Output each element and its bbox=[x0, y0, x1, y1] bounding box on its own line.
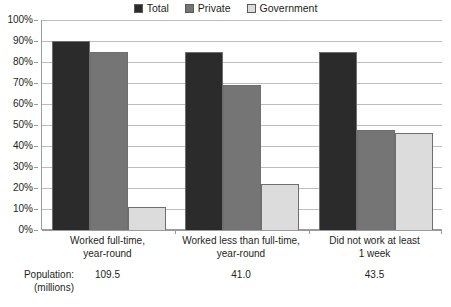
category-label-3-line2: 1 week bbox=[308, 247, 441, 260]
category-label-1: Worked full-time, year-round bbox=[41, 234, 174, 260]
bar-government-group1[interactable] bbox=[128, 207, 166, 230]
bar-total-group3[interactable] bbox=[319, 52, 357, 231]
y-tick-label-80: 80% bbox=[13, 57, 33, 67]
legend-swatch-total bbox=[134, 4, 143, 13]
y-tick-mark-60 bbox=[34, 104, 38, 105]
y-tick-mark-80 bbox=[34, 62, 38, 63]
population-value-2: 41.0 bbox=[174, 268, 308, 281]
category-label-2-line2: year-round bbox=[174, 247, 308, 260]
category-label-1-line1: Worked full-time, bbox=[41, 234, 174, 247]
y-tick-label-0: 0% bbox=[19, 225, 33, 235]
bar-private-group3[interactable] bbox=[357, 130, 395, 230]
y-tick-label-50: 50% bbox=[13, 120, 33, 130]
category-label-3-line1: Did not work at least bbox=[308, 234, 441, 247]
bars-layer bbox=[42, 20, 442, 230]
y-tick-mark-30 bbox=[34, 167, 38, 168]
legend-swatch-private bbox=[185, 4, 194, 13]
category-label-3: Did not work at least 1 week bbox=[308, 234, 441, 260]
population-row: Population: (millions) 109.5 41.0 43.5 bbox=[0, 268, 451, 298]
population-value-1: 109.5 bbox=[41, 268, 174, 281]
y-tick-label-40: 40% bbox=[13, 141, 33, 151]
y-tick-label-90: 90% bbox=[13, 36, 33, 46]
y-tick-label-30: 30% bbox=[13, 162, 33, 172]
bar-government-group3[interactable] bbox=[395, 133, 433, 230]
population-value-3: 43.5 bbox=[308, 268, 441, 281]
y-tick-label-70: 70% bbox=[13, 78, 33, 88]
legend-label-total: Total bbox=[147, 3, 169, 14]
y-tick-mark-70 bbox=[34, 83, 38, 84]
bar-private-group2[interactable] bbox=[223, 85, 261, 230]
legend-entry-government: Government bbox=[247, 3, 318, 14]
y-tick-label-10: 10% bbox=[13, 204, 33, 214]
bar-group-worked-full-time bbox=[42, 20, 175, 230]
y-tick-label-60: 60% bbox=[13, 99, 33, 109]
y-tick-mark-0 bbox=[34, 230, 38, 231]
chart-legend: Total Private Government bbox=[0, 3, 451, 14]
y-tick-mark-90 bbox=[34, 41, 38, 42]
y-tick-mark-40 bbox=[34, 146, 38, 147]
y-tick-mark-50 bbox=[34, 125, 38, 126]
y-tick-mark-100 bbox=[34, 20, 38, 21]
category-label-2-line1: Worked less than full-time, bbox=[174, 234, 308, 247]
y-tick-label-20: 20% bbox=[13, 183, 33, 193]
plot-wrapper: 100% 90% 80% 70% 60% 50% 40% 30% 20% 10%… bbox=[0, 20, 451, 242]
legend-swatch-government bbox=[247, 4, 256, 13]
legend-label-private: Private bbox=[198, 3, 231, 14]
y-axis: 100% 90% 80% 70% 60% 50% 40% 30% 20% 10%… bbox=[0, 20, 38, 230]
bar-total-group2[interactable] bbox=[185, 52, 223, 231]
legend-entry-private: Private bbox=[185, 3, 231, 14]
x-axis-category-labels: Worked full-time, year-round Worked less… bbox=[41, 234, 441, 266]
bar-government-group2[interactable] bbox=[261, 184, 299, 230]
y-tick-mark-20 bbox=[34, 188, 38, 189]
legend-entry-total: Total bbox=[134, 3, 169, 14]
bar-private-group1[interactable] bbox=[90, 52, 128, 231]
bar-group-worked-less-than-full-time bbox=[175, 20, 309, 230]
y-tick-label-100: 100% bbox=[7, 15, 33, 25]
bar-total-group1[interactable] bbox=[52, 41, 90, 230]
category-label-1-line2: year-round bbox=[41, 247, 174, 260]
x-axis-tick-3 bbox=[441, 229, 442, 234]
population-label-line2: (millions) bbox=[0, 281, 74, 294]
bar-group-did-not-work bbox=[309, 20, 442, 230]
plot-area bbox=[41, 20, 441, 230]
legend-label-government: Government bbox=[260, 3, 318, 14]
y-tick-mark-10 bbox=[34, 209, 38, 210]
category-label-2: Worked less than full-time, year-round bbox=[174, 234, 308, 260]
chart-container: Total Private Government 100% 90% 80% 70… bbox=[0, 0, 451, 307]
